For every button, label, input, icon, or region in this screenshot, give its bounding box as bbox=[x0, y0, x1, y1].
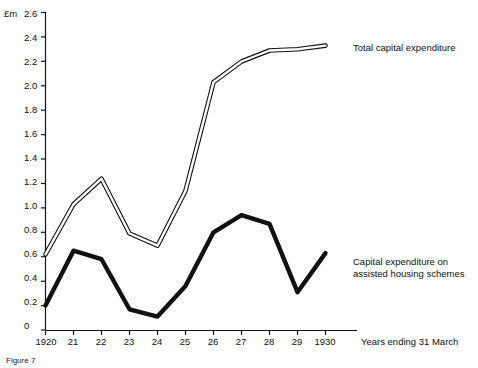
series-total-capital-expenditure bbox=[46, 46, 326, 255]
y-tick-marks bbox=[41, 13, 46, 331]
x-tick-marks bbox=[46, 331, 326, 336]
series-assisted-housing-schemes bbox=[46, 215, 326, 316]
chart-svg bbox=[0, 0, 478, 368]
chart-container: £m 2.6 2.4 2.2 2.0 1.8 1.6 1.4 1.2 1.0 0… bbox=[0, 0, 478, 368]
